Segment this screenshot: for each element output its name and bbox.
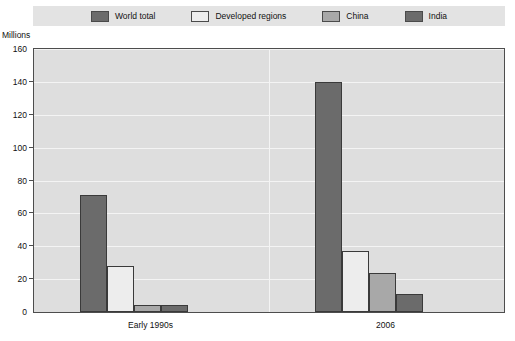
y-tick-label-0: 0 <box>22 307 27 317</box>
legend-item-developed-regions[interactable]: Developed regions <box>191 11 286 22</box>
legend-swatch-developed-regions-icon <box>191 11 209 22</box>
legend-label-developed-regions: Developed regions <box>215 11 286 21</box>
legend-item-world-total[interactable]: World total <box>91 11 155 22</box>
legend-item-india[interactable]: India <box>405 11 447 22</box>
bar-china-early-1990s[interactable] <box>134 305 161 312</box>
y-tick-mark-20 <box>29 278 33 279</box>
y-axis: 020406080100120140160 <box>0 48 30 313</box>
y-tick-label-140: 140 <box>13 77 27 87</box>
x-tick-label-2006: 2006 <box>376 320 395 330</box>
group-separator-1 <box>269 49 270 312</box>
y-axis-unit-label: Millions <box>2 30 30 40</box>
legend-swatch-world-total-icon <box>91 11 109 22</box>
y-tick-mark-140 <box>29 81 33 82</box>
y-tick-label-40: 40 <box>18 241 27 251</box>
legend-swatch-china-icon <box>322 11 340 22</box>
y-tick-mark-40 <box>29 245 33 246</box>
y-tick-label-120: 120 <box>13 110 27 120</box>
legend-swatch-india-icon <box>405 11 423 22</box>
legend-item-china[interactable]: China <box>322 11 368 22</box>
y-tick-label-20: 20 <box>18 274 27 284</box>
bar-developed-regions-2006[interactable] <box>342 251 369 312</box>
y-tick-label-80: 80 <box>18 176 27 186</box>
y-tick-mark-100 <box>29 147 33 148</box>
y-tick-mark-120 <box>29 114 33 115</box>
legend-label-india: India <box>429 11 447 21</box>
bar-world-total-2006[interactable] <box>315 82 342 312</box>
bar-china-2006[interactable] <box>369 273 396 312</box>
y-tick-label-100: 100 <box>13 143 27 153</box>
chart-legend: World total Developed regions China Indi… <box>33 6 505 26</box>
bar-india-2006[interactable] <box>396 294 423 312</box>
y-tick-mark-60 <box>29 212 33 213</box>
bar-developed-regions-early-1990s[interactable] <box>107 266 134 312</box>
chart-plot-area <box>33 48 505 313</box>
chart-plot-inner <box>34 49 504 312</box>
y-tick-mark-80 <box>29 180 33 181</box>
legend-label-world-total: World total <box>115 11 155 21</box>
y-tick-label-60: 60 <box>18 208 27 218</box>
legend-label-china: China <box>346 11 368 21</box>
x-tick-label-early-1990s: Early 1990s <box>128 320 173 330</box>
bar-world-total-early-1990s[interactable] <box>80 195 107 312</box>
y-tick-label-160: 160 <box>13 44 27 54</box>
bar-india-early-1990s[interactable] <box>161 305 188 312</box>
